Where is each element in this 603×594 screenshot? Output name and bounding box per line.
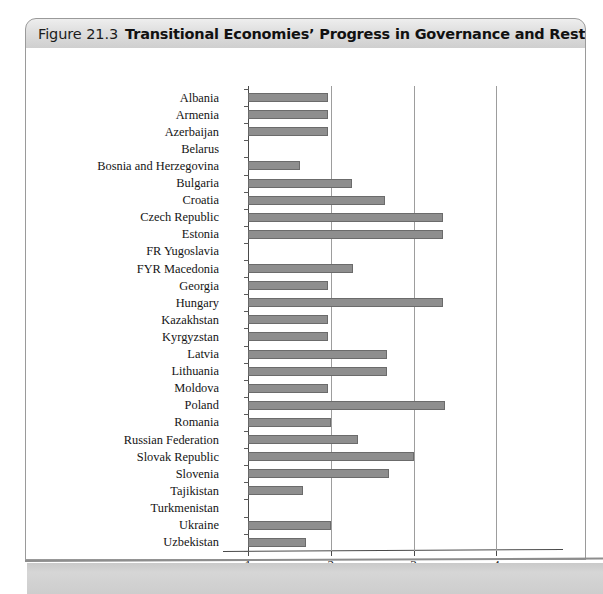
bar (248, 367, 387, 376)
y-tick (244, 380, 249, 381)
y-tick (244, 123, 249, 124)
category-label: FR Yugoslavia (146, 245, 219, 257)
category-label: Uzbekistan (163, 536, 219, 548)
y-tick (244, 294, 249, 295)
x-tick-4 (496, 551, 497, 556)
x-tick-1 (248, 551, 249, 556)
bar (248, 127, 328, 136)
category-label: Slovak Republic (137, 451, 219, 463)
bar (248, 281, 328, 290)
plot-axes-area: 1234 (223, 48, 587, 560)
category-label: Turkmenistan (151, 502, 219, 514)
figure-number: Figure 21.3 (38, 26, 118, 42)
category-axis-labels: AlbaniaArmeniaAzerbaijanBelarusBosnia an… (26, 48, 219, 560)
figure-title: Transitional Economies’ Progress in Gove… (125, 26, 586, 42)
category-label: Kazakhstan (161, 314, 219, 326)
bar (248, 179, 352, 188)
category-label: Bosnia and Herzegovina (97, 160, 219, 172)
category-label: Armenia (176, 109, 219, 121)
category-label: Poland (185, 399, 219, 411)
bar-chart: AlbaniaArmeniaAzerbaijanBelarusBosnia an… (26, 48, 587, 560)
y-tick (244, 192, 249, 193)
x-axis-line (223, 549, 563, 552)
y-tick (244, 397, 249, 398)
category-label: Estonia (182, 228, 219, 240)
category-label: Russian Federation (124, 434, 219, 446)
y-tick (244, 551, 249, 552)
bar (248, 486, 303, 495)
bar (248, 418, 331, 427)
y-tick (244, 260, 249, 261)
y-tick (244, 465, 249, 466)
bar (248, 538, 306, 547)
y-tick (244, 363, 249, 364)
figure-caption-bar: Figure 21.3 Transitional Economies’ Prog… (25, 18, 586, 49)
y-tick (244, 243, 249, 244)
category-label: Azerbaijan (165, 126, 219, 138)
y-tick (244, 482, 249, 483)
y-tick (244, 499, 249, 500)
category-label: Latvia (187, 348, 219, 360)
y-tick (244, 534, 249, 535)
bar (248, 401, 445, 410)
bar (248, 161, 300, 170)
y-tick (244, 157, 249, 158)
y-tick (244, 431, 249, 432)
category-label: Georgia (179, 280, 219, 292)
category-label: Hungary (176, 297, 219, 309)
category-label: Ukraine (179, 519, 219, 531)
category-label: FYR Macedonia (137, 263, 219, 275)
gridline-2 (331, 86, 332, 551)
y-tick (244, 89, 249, 90)
bar (248, 469, 389, 478)
y-tick (244, 226, 249, 227)
x-tick-2 (331, 551, 332, 556)
figure-frame: Figure 21.3 Transitional Economies’ Prog… (25, 18, 586, 560)
y-tick (244, 517, 249, 518)
category-label: Tajikistan (170, 485, 219, 497)
x-tick-3 (414, 551, 415, 556)
bar (248, 384, 328, 393)
category-label: Albania (180, 92, 219, 104)
y-tick (244, 140, 249, 141)
y-tick (244, 414, 249, 415)
bar (248, 350, 387, 359)
y-tick (244, 209, 249, 210)
bar (248, 452, 414, 461)
y-tick (244, 448, 249, 449)
gridline-4 (496, 86, 497, 551)
y-tick (244, 346, 249, 347)
figure-body: AlbaniaArmeniaAzerbaijanBelarusBosnia an… (25, 48, 586, 560)
y-tick (244, 277, 249, 278)
bar (248, 230, 443, 239)
bar (248, 435, 358, 444)
bar (248, 196, 385, 205)
bar (248, 332, 328, 341)
category-label: Moldova (174, 382, 219, 394)
y-tick (244, 311, 249, 312)
bar (248, 521, 331, 530)
bar (248, 213, 443, 222)
bar (248, 264, 353, 273)
category-label: Kyrgyzstan (162, 331, 219, 343)
y-tick (244, 175, 249, 176)
bar (248, 93, 328, 102)
category-label: Croatia (183, 194, 219, 206)
category-label: Romania (174, 416, 219, 428)
bar (248, 298, 443, 307)
category-label: Belarus (181, 143, 219, 155)
category-label: Bulgaria (176, 177, 219, 189)
category-label: Czech Republic (140, 211, 219, 223)
y-tick (244, 106, 249, 107)
category-label: Lithuania (172, 365, 219, 377)
gridline-3 (414, 86, 415, 551)
page-footer-band (27, 563, 603, 594)
bar (248, 315, 328, 324)
bar (248, 110, 328, 119)
y-tick (244, 328, 249, 329)
category-label: Slovenia (176, 468, 219, 480)
